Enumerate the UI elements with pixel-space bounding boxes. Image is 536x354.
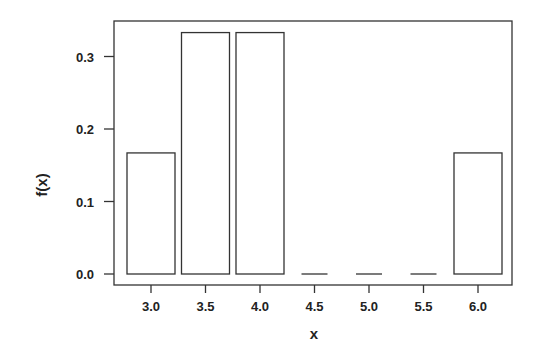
y-tick-label: 0.3 — [76, 50, 94, 65]
y-tick-label: 0.2 — [76, 122, 94, 137]
x-tick-label: 4.0 — [251, 299, 269, 314]
chart: 0.00.10.20.3 3.03.54.04.55.05.56.0 x f(x… — [0, 0, 536, 354]
y-axis-label: f(x) — [33, 173, 50, 196]
x-tick-label: 5.0 — [360, 299, 378, 314]
y-tick-label: 0.1 — [76, 195, 94, 210]
x-tick-label: 3.5 — [196, 299, 214, 314]
x-axis: 3.03.54.04.55.05.56.0 — [142, 285, 487, 314]
x-axis-label: x — [310, 325, 319, 342]
x-tick-label: 3.0 — [142, 299, 160, 314]
bar-3.0 — [127, 153, 175, 274]
y-axis: 0.00.10.20.3 — [76, 50, 114, 283]
x-tick-label: 6.0 — [469, 299, 487, 314]
bar-4.0 — [236, 33, 284, 274]
bar-chart: 0.00.10.20.3 3.03.54.04.55.05.56.0 x f(x… — [0, 0, 536, 354]
bar-6.0 — [454, 153, 502, 274]
bars — [127, 33, 502, 274]
x-tick-label: 5.5 — [414, 299, 432, 314]
x-tick-label: 4.5 — [305, 299, 323, 314]
y-tick-label: 0.0 — [76, 267, 94, 282]
bar-3.5 — [182, 33, 230, 274]
